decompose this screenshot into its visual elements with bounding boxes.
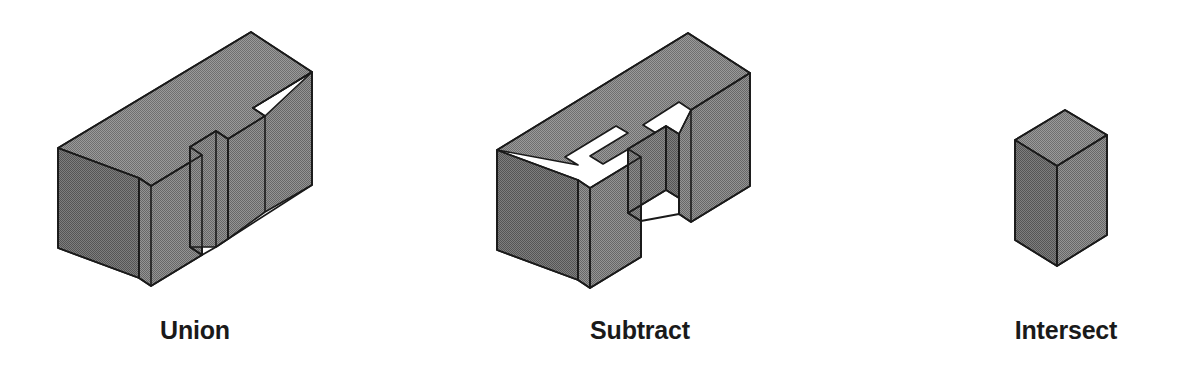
union-label: Union [60, 318, 330, 343]
union-solid [58, 32, 312, 286]
intersect-solid [1015, 110, 1107, 266]
subtract-label: Subtract [500, 318, 780, 343]
subtract-left-face [497, 150, 578, 280]
subtract-slot-right-wall [666, 126, 679, 198]
subtract-solid [497, 33, 750, 288]
subtract-left-right-face [578, 180, 590, 288]
intersect-label: Intersect [950, 318, 1182, 343]
union-mid-face [190, 131, 228, 247]
boolean-operations-figure: Union Subtract Intersect [0, 0, 1187, 380]
